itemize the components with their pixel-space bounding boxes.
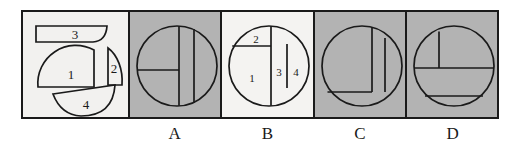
pieces-panel[interactable]: 3 1 2 4: [21, 10, 130, 119]
option-b-region-3-label: 3: [277, 66, 283, 78]
pieces-drawing: 3 1 2 4: [23, 12, 130, 119]
option-a-circle: [137, 26, 217, 106]
piece-1-shape: [38, 45, 94, 87]
option-b-region-1-label: 1: [250, 72, 256, 84]
option-a-panel[interactable]: [128, 10, 222, 119]
panel-strip: 3 1 2 4: [21, 10, 499, 119]
puzzle-figure: 3 1 2 4: [0, 0, 522, 160]
option-c-drawing: [315, 12, 407, 119]
option-c-circle: [322, 26, 402, 106]
piece-1-label: 1: [68, 67, 75, 82]
answer-label-a[interactable]: A: [128, 121, 221, 151]
option-a-drawing: [130, 12, 222, 119]
option-d-circle: [414, 26, 494, 106]
option-d-panel[interactable]: [405, 10, 499, 119]
option-d-drawing: [407, 12, 499, 119]
option-b-region-4-label: 4: [294, 66, 300, 78]
piece-3-label: 3: [72, 27, 79, 42]
option-c-panel[interactable]: [313, 10, 407, 119]
label-spacer: [21, 121, 128, 151]
answer-labels-row: A B C D: [21, 121, 499, 151]
piece-4-label: 4: [83, 97, 90, 112]
option-b-drawing: 1 2 3 4: [222, 12, 314, 119]
answer-label-c[interactable]: C: [314, 121, 407, 151]
answer-label-d[interactable]: D: [406, 121, 499, 151]
option-b-panel[interactable]: 1 2 3 4: [220, 10, 314, 119]
option-b-region-2-label: 2: [254, 33, 260, 45]
piece-2-label: 2: [111, 61, 118, 76]
answer-label-b[interactable]: B: [221, 121, 314, 151]
